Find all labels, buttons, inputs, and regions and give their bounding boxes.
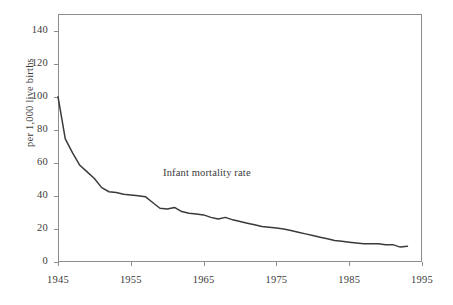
data-series-layer [58,14,422,262]
x-tick-label: 1965 [174,274,234,285]
series-annotation-label: Infant mortality rate [163,167,251,178]
infant-mortality-chart: 020406080100120140 194519551965197519851… [0,0,453,305]
x-tick-label: 1975 [246,274,306,285]
x-tick-label: 1955 [101,274,161,285]
x-tick-label: 1945 [28,274,88,285]
x-tick-label: 1985 [319,274,379,285]
y-axis-title: per 1,000 live births [24,48,35,158]
x-tick-label: 1995 [392,274,452,285]
